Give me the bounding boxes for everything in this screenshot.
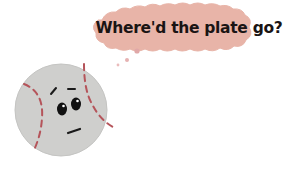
left-eye-icon	[57, 103, 67, 116]
baseball-character	[15, 64, 113, 156]
speech-bubble-text: Where'd the plate go?	[96, 16, 282, 40]
thought-dots	[117, 48, 140, 66]
right-eye-icon	[71, 98, 81, 111]
illustration-scene: Where'd the plate go?	[0, 0, 288, 172]
